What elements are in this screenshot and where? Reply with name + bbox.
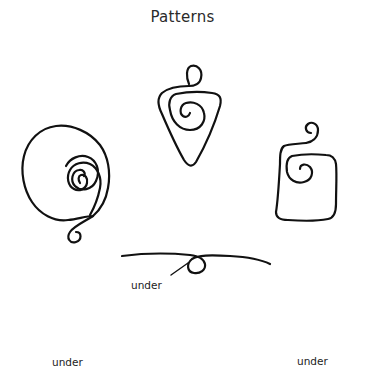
diagram-canvas (0, 0, 365, 392)
wrap-left-label: under (52, 356, 83, 368)
pattern-spiral-triangle (159, 66, 221, 166)
wrap-center-label: under (131, 279, 162, 291)
pattern-spiral-square (276, 120, 336, 220)
wrap-right-label: under (297, 355, 328, 367)
leader-line (171, 263, 188, 275)
pattern-spiral-circle (22, 126, 109, 243)
wrap-center (122, 254, 270, 275)
